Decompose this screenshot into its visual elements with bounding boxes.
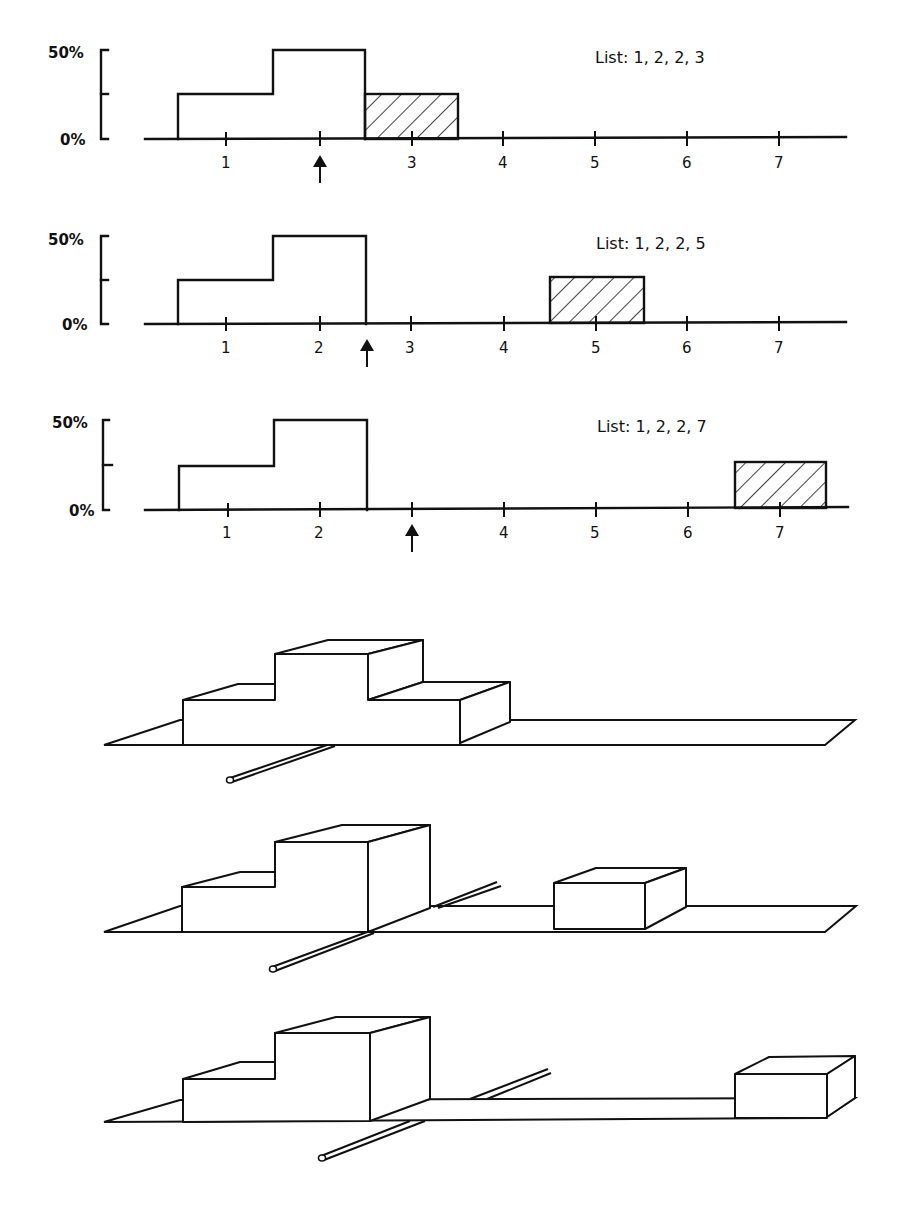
x-axis [145,322,846,324]
svg-text:1: 1 [221,154,231,172]
block-model-2 [104,825,856,972]
x-axis [145,137,846,139]
mean-arrow-icon [405,524,419,552]
balance-rod-icon [319,1121,426,1161]
svg-text:4: 4 [498,154,508,172]
svg-text:7: 7 [774,154,784,172]
svg-text:5: 5 [591,339,601,357]
block-top [183,684,275,700]
bars-outline [179,420,367,510]
svg-text:3: 3 [405,339,415,357]
block-model-3 [104,1017,855,1161]
list-label: List: 1, 2, 2, 3 [595,48,705,67]
y-label-50: 50% [52,414,88,432]
y-label-50: 50% [48,44,84,62]
histogram-1: 50% 0% 1 3 4 5 6 7 Li [48,44,846,183]
x-tick-labels: 1 3 4 5 6 7 [221,154,784,172]
y-axis: 50% 0% [48,44,108,149]
svg-text:6: 6 [682,154,692,172]
svg-text:4: 4 [499,339,509,357]
list-label: List: 1, 2, 2, 7 [597,417,707,436]
mean-arrow-icon [360,339,374,367]
balance-rod-icon [433,882,501,908]
bars-outline [178,236,366,324]
balance-rod-icon [270,931,375,972]
y-label-0: 0% [69,502,94,520]
y-label-50: 50% [48,231,84,249]
svg-text:2: 2 [314,524,324,542]
y-label-0: 0% [62,316,87,334]
svg-text:6: 6 [683,524,693,542]
svg-text:4: 4 [499,524,509,542]
bars-outline [178,50,365,139]
svg-text:6: 6 [682,339,692,357]
block-top [183,1062,275,1079]
svg-text:1: 1 [221,339,231,357]
svg-text:5: 5 [590,524,600,542]
figure-canvas: 50% 0% 1 3 4 5 6 7 Li [0,0,899,1205]
block-front [182,842,368,932]
block-model-1 [104,640,855,783]
list-label: List: 1, 2, 2, 5 [596,234,706,253]
y-axis: 50% 0% [52,414,112,520]
x-tick-labels: 1 2 4 5 6 7 [222,524,785,542]
svg-text:3: 3 [407,154,417,172]
histogram-3: 50% 0% 1 2 4 5 6 7 List: 1, 2, 2, 7 [52,414,848,552]
mean-arrow-icon [313,155,327,183]
balance-rod-icon [470,1069,551,1099]
svg-text:7: 7 [775,524,785,542]
hatched-bar-7 [735,462,826,508]
svg-text:2: 2 [314,339,324,357]
y-axis: 50% 0% [48,231,108,334]
histogram-2: 50% 0% 1 2 3 4 5 6 7 List: 1, 2, 2, [48,231,846,367]
block-front [735,1074,827,1118]
block-top [182,872,275,887]
x-tick-labels: 1 2 3 4 5 6 7 [221,339,784,357]
svg-text:1: 1 [222,524,232,542]
y-label-0: 0% [60,131,85,149]
svg-text:5: 5 [590,154,600,172]
balance-rod-icon [227,744,336,783]
block-front [554,883,645,929]
svg-text:7: 7 [774,339,784,357]
